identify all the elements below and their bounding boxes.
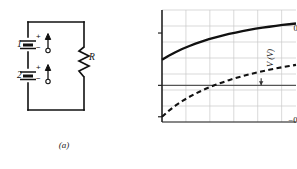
battery-2-label: 2 — [17, 70, 22, 80]
battery-2-symbol — [20, 72, 36, 80]
y-tick-label-2: −0.3 — [272, 115, 297, 125]
panel-a-caption: (a) — [52, 140, 76, 150]
panel-b-graph: V (V) R (Ω) 0.5 0 −0.3 1 2 Rs (b) — [148, 0, 297, 169]
y-tick-label-0: 0.5 — [276, 23, 297, 33]
battery-2-plus-sign: + — [36, 64, 41, 72]
panel-a-circuit: + − + − 1 2 R (a) — [0, 0, 148, 169]
battery-1-emf-arrow — [45, 34, 50, 53]
battery-1-plus-sign: + — [36, 33, 41, 41]
resistor-symbol — [79, 47, 89, 77]
figure-container: + − + − 1 2 R (a) V (V) R (Ω) 0.5 0 −0.3… — [0, 0, 297, 169]
battery-2-minus-sign: − — [36, 75, 41, 83]
rs-marker-arrow — [259, 81, 263, 85]
battery-2-emf-arrow — [45, 65, 50, 84]
y-tick-label-1: 0 — [276, 83, 297, 93]
y-axis-label: V (V) — [265, 49, 275, 67]
resistor-label: R — [89, 52, 95, 62]
battery-1-minus-sign: − — [36, 44, 41, 52]
vr-plot — [148, 0, 297, 169]
battery-1-label: 1 — [17, 39, 22, 49]
battery-1-symbol — [20, 41, 36, 49]
